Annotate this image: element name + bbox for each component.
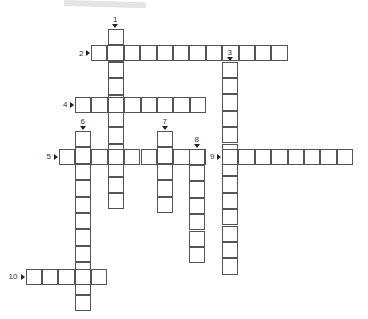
grid-cell[interactable] <box>222 209 238 225</box>
grid-cell[interactable] <box>124 149 140 165</box>
grid-cell[interactable] <box>75 97 91 113</box>
grid-cell[interactable] <box>238 149 254 165</box>
grid-cell[interactable] <box>222 78 238 94</box>
arrow-down-icon <box>80 126 86 130</box>
grid-cell[interactable] <box>190 97 206 113</box>
grid-cell[interactable] <box>222 149 238 165</box>
grid-cell[interactable] <box>108 127 124 143</box>
clue-number: 1 <box>113 16 117 24</box>
grid-cell[interactable] <box>124 45 140 61</box>
grid-cell[interactable] <box>91 45 107 61</box>
grid-cell[interactable] <box>157 147 173 163</box>
grid-cell[interactable] <box>108 62 124 78</box>
grid-cell[interactable] <box>75 213 91 229</box>
clue-number: 4 <box>63 101 67 109</box>
crossword-grid: 12345678910 <box>0 0 368 319</box>
grid-cell[interactable] <box>189 247 205 263</box>
grid-cell[interactable] <box>108 149 124 165</box>
grid-cell[interactable] <box>222 111 238 127</box>
grid-cell[interactable] <box>222 193 238 209</box>
grid-cell[interactable] <box>189 165 205 181</box>
grid-cell[interactable] <box>108 78 124 94</box>
grid-cell[interactable] <box>108 111 124 127</box>
grid-cell[interactable] <box>107 45 123 61</box>
grid-cell[interactable] <box>222 226 238 242</box>
grid-cell[interactable] <box>124 97 140 113</box>
grid-cell[interactable] <box>75 295 91 311</box>
grid-cell[interactable] <box>75 197 91 213</box>
grid-cell[interactable] <box>157 45 173 61</box>
grid-cell[interactable] <box>189 149 205 165</box>
grid-cell[interactable] <box>91 269 107 285</box>
grid-cell[interactable] <box>189 231 205 247</box>
clue-number: 6 <box>81 118 85 126</box>
grid-cell[interactable] <box>58 269 74 285</box>
grid-cell[interactable] <box>288 149 304 165</box>
grid-cell[interactable] <box>141 97 157 113</box>
grid-cell[interactable] <box>157 97 173 113</box>
grid-cell[interactable] <box>75 147 91 163</box>
grid-cell[interactable] <box>206 45 222 61</box>
grid-cell[interactable] <box>173 45 189 61</box>
grid-cell[interactable] <box>108 29 124 45</box>
arrow-down-icon <box>162 126 168 130</box>
grid-cell[interactable] <box>222 258 238 274</box>
grid-cell[interactable] <box>337 149 353 165</box>
arrow-right-icon <box>70 102 74 108</box>
grid-cell[interactable] <box>157 164 173 180</box>
arrow-right-icon <box>217 154 221 160</box>
grid-cell[interactable] <box>255 149 271 165</box>
grid-cell[interactable] <box>108 177 124 193</box>
grid-cell[interactable] <box>42 269 58 285</box>
grid-cell[interactable] <box>141 149 157 165</box>
grid-cell[interactable] <box>189 181 205 197</box>
grid-cell[interactable] <box>255 45 271 61</box>
arrow-down-icon <box>112 24 118 28</box>
arrow-right-icon <box>86 50 90 56</box>
grid-cell[interactable] <box>75 269 91 285</box>
grid-cell[interactable] <box>189 214 205 230</box>
grid-cell[interactable] <box>75 164 91 180</box>
grid-cell[interactable] <box>271 149 287 165</box>
grid-cell[interactable] <box>75 180 91 196</box>
grid-cell[interactable] <box>222 94 238 110</box>
clue-number: 2 <box>79 50 83 58</box>
grid-cell[interactable] <box>271 45 287 61</box>
grid-cell[interactable] <box>75 131 91 147</box>
grid-cell[interactable] <box>91 97 107 113</box>
grid-cell[interactable] <box>222 127 238 143</box>
grid-cell[interactable] <box>173 149 189 165</box>
grid-cell[interactable] <box>157 131 173 147</box>
grid-cell[interactable] <box>189 45 205 61</box>
clue-number: 7 <box>163 118 167 126</box>
grid-cell[interactable] <box>75 246 91 262</box>
clue-number: 5 <box>47 153 51 161</box>
grid-cell[interactable] <box>108 193 124 209</box>
grid-cell[interactable] <box>75 229 91 245</box>
grid-cell[interactable] <box>59 149 75 165</box>
grid-cell[interactable] <box>239 45 255 61</box>
grid-cell[interactable] <box>91 149 107 165</box>
arrow-right-icon <box>21 274 25 280</box>
grid-cell[interactable] <box>140 45 156 61</box>
arrow-right-icon <box>54 154 58 160</box>
clue-number: 9 <box>210 153 214 161</box>
grid-cell[interactable] <box>157 180 173 196</box>
grid-cell[interactable] <box>26 269 42 285</box>
arrow-down-icon <box>227 57 233 61</box>
arrow-down-icon <box>194 144 200 148</box>
grid-cell[interactable] <box>304 149 320 165</box>
clue-number: 8 <box>195 136 199 144</box>
grid-cell[interactable] <box>320 149 336 165</box>
grid-cell[interactable] <box>189 198 205 214</box>
grid-cell[interactable] <box>222 242 238 258</box>
grid-cell[interactable] <box>222 176 238 192</box>
clue-number: 3 <box>228 49 232 57</box>
grid-cell[interactable] <box>157 197 173 213</box>
grid-cell[interactable] <box>222 62 238 78</box>
clue-number: 10 <box>9 273 18 281</box>
grid-cell[interactable] <box>173 97 189 113</box>
grid-cell[interactable] <box>108 97 124 113</box>
